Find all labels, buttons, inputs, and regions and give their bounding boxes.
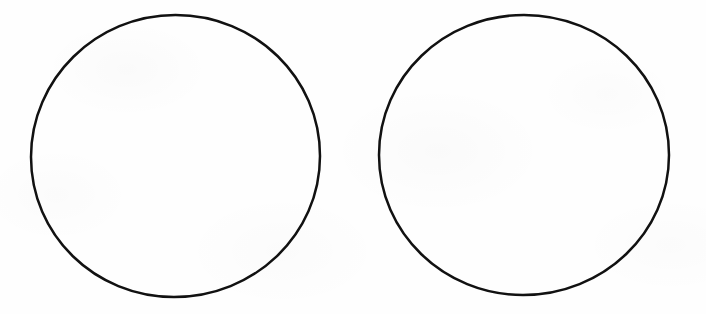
- drawing-canvas: [0, 0, 706, 314]
- left-circle: [31, 15, 320, 297]
- right-circle: [379, 15, 669, 295]
- circles-drawing: [0, 0, 706, 314]
